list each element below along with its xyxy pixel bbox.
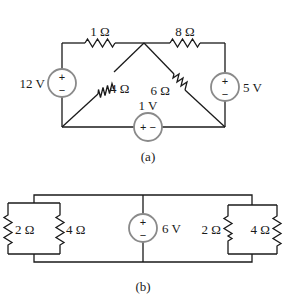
label-5v: 5 V xyxy=(243,80,263,95)
resistor-8ohm xyxy=(170,39,200,47)
plus-sign: + xyxy=(140,216,146,228)
label-1ohm: 1 Ω xyxy=(90,24,109,39)
label-4ohm-right: 4 Ω xyxy=(251,222,270,237)
label-2ohm-right: 2 Ω xyxy=(202,222,221,237)
label-8ohm: 8 Ω xyxy=(175,24,194,39)
wire xyxy=(144,43,174,74)
circuit-figure: + − 12 V + − 5 V + − 1 V 4 Ω 6 Ω 1 Ω 8 Ω… xyxy=(0,0,299,301)
minus-sign: − xyxy=(59,84,65,96)
plus-sign: + xyxy=(59,71,65,83)
circuit-b: 2 Ω 4 Ω + − 6 V 2 Ω 4 Ω (b) xyxy=(4,195,281,294)
resistor-4ohm-left xyxy=(56,203,64,254)
label-4ohm: 4 Ω xyxy=(110,81,129,96)
polarity-signs: + − xyxy=(140,121,156,133)
label-12v: 12 V xyxy=(20,76,46,91)
caption-b: (b) xyxy=(135,279,150,294)
label-4ohm-left: 4 Ω xyxy=(66,222,85,237)
resistor-2ohm-left xyxy=(4,203,12,254)
resistor-4ohm-right xyxy=(273,205,281,254)
label-2ohm-left: 2 Ω xyxy=(15,222,34,237)
circuit-a: + − 12 V + − 5 V + − 1 V 4 Ω 6 Ω 1 Ω 8 Ω… xyxy=(20,24,263,164)
minus-sign: − xyxy=(222,88,228,100)
caption-a: (a) xyxy=(141,149,155,164)
minus-sign: − xyxy=(140,229,146,241)
plus-sign: + xyxy=(222,75,228,87)
label-6ohm: 6 Ω xyxy=(151,83,170,98)
resistor-2ohm-right xyxy=(224,205,232,254)
resistor-6ohm xyxy=(173,74,187,90)
label-6v: 6 V xyxy=(162,221,182,236)
label-1v: 1 V xyxy=(139,98,159,113)
wire xyxy=(114,43,144,72)
wire xyxy=(62,94,98,127)
resistor-1ohm xyxy=(85,39,115,47)
